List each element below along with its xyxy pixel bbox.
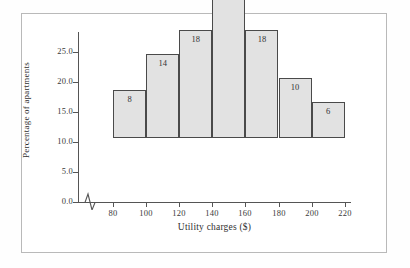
x-tick-4	[245, 203, 246, 207]
y-tick-3	[73, 112, 78, 113]
y-tick-5	[73, 52, 78, 53]
x-tick-label-3: 140	[200, 208, 224, 218]
x-tick-label-5: 180	[267, 208, 291, 218]
x-tick-2	[179, 203, 180, 207]
bar-120-140[interactable]: 18	[179, 30, 212, 138]
x-tick-3	[212, 203, 213, 207]
bar-value-label: 14	[147, 58, 178, 68]
y-tick-label-4: 20.0	[45, 77, 73, 86]
axis-break-icon	[80, 190, 106, 210]
bar-160-180[interactable]: 18	[245, 30, 278, 138]
y-tick-label-0: 0.0	[45, 197, 73, 206]
y-tick-4	[73, 82, 78, 83]
y-tick-0	[73, 202, 78, 203]
x-tick-label-2: 120	[167, 208, 191, 218]
bar-value-label: 10	[280, 82, 311, 92]
x-tick-0	[113, 203, 114, 207]
bar-180-200[interactable]: 10	[279, 78, 312, 138]
bar-value-label: 6	[313, 106, 344, 116]
x-axis-title: Utility charges ($)	[78, 222, 351, 232]
bar-80-100[interactable]: 8	[113, 90, 146, 138]
y-tick-label-5: 25.0	[45, 47, 73, 56]
x-tick-label-1: 100	[134, 208, 158, 218]
x-tick-1	[146, 203, 147, 207]
bar-100-120[interactable]: 14	[146, 54, 179, 138]
x-tick-label-7: 220	[333, 208, 357, 218]
y-tick-1	[73, 172, 78, 173]
x-tick-label-4: 160	[233, 208, 257, 218]
bar-value-label: 18	[246, 34, 277, 44]
bar-value-label: 18	[180, 34, 211, 44]
x-tick-6	[312, 203, 313, 207]
y-tick-label-2: 10.0	[45, 137, 73, 146]
x-tick-5	[279, 203, 280, 207]
y-tick-2	[73, 142, 78, 143]
y-axis-line	[78, 32, 79, 203]
histogram-figure: 0.0 5.0 10.0 15.0 20.0 25.0 80 100 120 1…	[0, 0, 410, 268]
bar-series: 8 14 18 26 18 10 6	[113, 0, 345, 203]
plot-area: 0.0 5.0 10.0 15.0 20.0 25.0 80 100 120 1…	[0, 0, 410, 268]
y-tick-label-1: 5.0	[45, 167, 73, 176]
x-tick-7	[345, 203, 346, 207]
x-tick-label-6: 200	[300, 208, 324, 218]
y-axis-title: Percentage of apartments	[21, 40, 31, 180]
y-tick-label-3: 15.0	[45, 107, 73, 116]
bar-140-160[interactable]: 26	[212, 0, 245, 138]
bar-value-label: 8	[114, 94, 145, 104]
bar-200-220[interactable]: 6	[312, 102, 345, 138]
